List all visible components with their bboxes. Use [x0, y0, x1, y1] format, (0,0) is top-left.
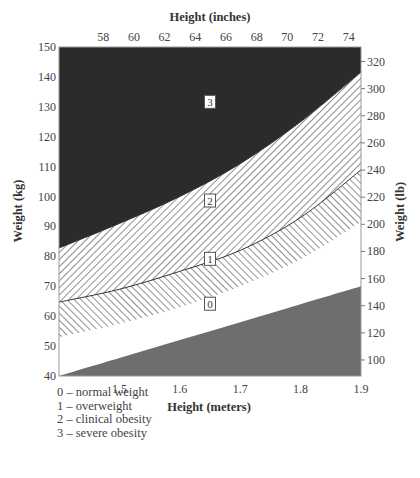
- legend: 0 – normal weight 1 – overweight 2 – cli…: [57, 386, 152, 440]
- y-right-tick-label: 160: [367, 272, 385, 286]
- legend-item-3: 3 – severe obesity: [57, 427, 152, 441]
- zone-label-2: 2: [205, 194, 216, 207]
- legend-item-0: 0 – normal weight: [57, 386, 152, 400]
- y-tick-label: 70: [44, 279, 56, 293]
- y-tick-label: 90: [44, 219, 56, 233]
- y-right-tick-label: 180: [367, 244, 385, 258]
- left-y-axis-title: Weight (kg): [11, 180, 25, 243]
- y-right-tick-label: 120: [367, 326, 385, 340]
- y-right-tick-label: 200: [367, 217, 385, 231]
- top-x-axis-ticks: 586062646668707274: [97, 30, 354, 44]
- zone-label-3: 3: [205, 95, 216, 108]
- x-tick-label: 1.6: [172, 382, 187, 396]
- y-right-tick-label: 140: [367, 299, 385, 313]
- top-x-tick-label: 70: [281, 30, 293, 44]
- bottom-x-axis-title: Height (meters): [167, 400, 251, 414]
- top-x-tick-label: 74: [343, 30, 355, 44]
- svg-text:3: 3: [207, 96, 213, 108]
- y-tick-label: 50: [44, 339, 56, 353]
- legend-item-2: 2 – clinical obesity: [57, 413, 152, 427]
- y-right-tick-label: 220: [367, 190, 385, 204]
- y-right-tick-label: 280: [367, 109, 385, 123]
- x-tick-label: 1.7: [233, 382, 248, 396]
- top-x-tick-label: 64: [189, 30, 201, 44]
- y-right-tick-label: 240: [367, 163, 385, 177]
- y-tick-label: 80: [44, 249, 56, 263]
- y-tick-label: 130: [38, 100, 56, 114]
- zone-label-0: 0: [205, 297, 216, 310]
- y-tick-label: 60: [44, 309, 56, 323]
- x-tick-label: 1.9: [354, 382, 369, 396]
- y-right-tick-label: 320: [367, 55, 385, 69]
- top-x-tick-label: 68: [251, 30, 263, 44]
- x-tick-label: 1.8: [293, 382, 308, 396]
- top-x-tick-label: 58: [97, 30, 109, 44]
- zone-label-1: 1: [205, 252, 216, 265]
- y-tick-label: 150: [38, 40, 56, 54]
- y-tick-label: 110: [38, 160, 56, 174]
- y-right-tick-label: 300: [367, 82, 385, 96]
- y-tick-label: 100: [38, 190, 56, 204]
- y-right-tick-label: 100: [367, 353, 385, 367]
- right-y-axis-title: Weight (lb): [393, 182, 407, 242]
- top-x-axis-title: Height (inches): [170, 10, 251, 24]
- y-tick-label: 120: [38, 130, 56, 144]
- top-x-tick-label: 62: [159, 30, 171, 44]
- top-x-tick-label: 60: [128, 30, 140, 44]
- svg-text:2: 2: [207, 195, 213, 207]
- top-x-tick-label: 66: [220, 30, 232, 44]
- left-y-axis-ticks: 405060708090100110120130140150: [38, 40, 56, 383]
- y-tick-label: 40: [44, 369, 56, 383]
- legend-item-1: 1 – overweight: [57, 400, 152, 414]
- right-y-axis-ticks: 100120140160180200220240260280300320: [361, 55, 385, 367]
- top-x-tick-label: 72: [312, 30, 324, 44]
- y-right-tick-label: 260: [367, 136, 385, 150]
- svg-text:1: 1: [207, 253, 213, 265]
- svg-text:0: 0: [207, 298, 213, 310]
- y-tick-label: 140: [38, 70, 56, 84]
